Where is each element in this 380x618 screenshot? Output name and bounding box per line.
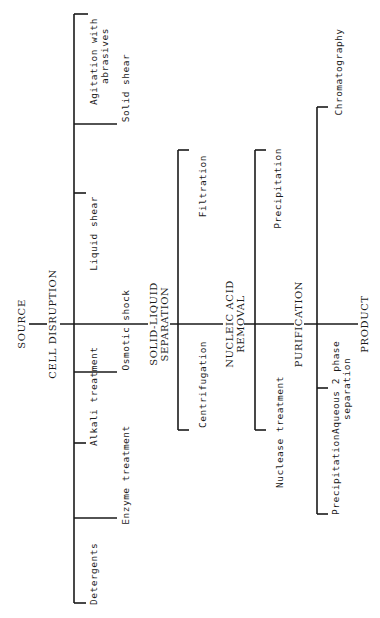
method-osmotic-shock: Osmotic shock bbox=[120, 290, 131, 371]
stage-product: PRODUCT bbox=[359, 295, 370, 352]
stage-nucleic-acid-removal-line1: NUCLEIC ACID bbox=[224, 280, 235, 368]
method-enzyme-treatment: Enzyme treatment bbox=[120, 425, 131, 525]
method-agitation-line2: abrasives bbox=[99, 28, 110, 84]
method-agitation-line1: Agitation with bbox=[88, 18, 99, 105]
stage-source: SOURCE bbox=[16, 299, 27, 349]
stage-cell-disruption: CELL DISRUPTION bbox=[47, 269, 58, 378]
method-chromatography: Chromatography bbox=[333, 28, 344, 115]
process-flow-diagram: SOURCE CELL DISRUPTION SOLID-LIQUID SEPA… bbox=[0, 0, 380, 618]
method-filtration: Filtration bbox=[197, 155, 208, 217]
branch-solid-liquid-separation bbox=[178, 150, 189, 430]
method-aqueous-two-phase-line2: separation bbox=[341, 358, 352, 420]
stage-solid-liquid-separation-line1: SOLID-LIQUID bbox=[148, 282, 159, 366]
method-precipitation-nucleic: Precipitation bbox=[272, 148, 283, 229]
stage-solid-liquid-separation-line2: SEPARATION bbox=[159, 287, 170, 362]
method-nuclease-treatment: Nuclease treatment bbox=[274, 376, 285, 488]
method-centrifugation: Centrifugation bbox=[197, 341, 208, 428]
stage-purification: PURIFICATION bbox=[293, 281, 304, 367]
method-liquid-shear: Liquid shear bbox=[88, 196, 99, 271]
branch-nucleic-acid-removal bbox=[255, 150, 266, 430]
method-precipitation-purification: Precipitation bbox=[330, 434, 341, 515]
method-aqueous-two-phase-line1: Aqueous 2 phase bbox=[330, 341, 341, 434]
method-detergents: Detergents bbox=[88, 543, 99, 605]
stage-nucleic-acid-removal-line2: REMOVAL bbox=[235, 295, 246, 353]
branch-purification bbox=[317, 107, 328, 514]
method-alkali-treatment: Alkali treatment bbox=[88, 346, 99, 446]
method-solid-shear: Solid shear bbox=[120, 54, 131, 122]
